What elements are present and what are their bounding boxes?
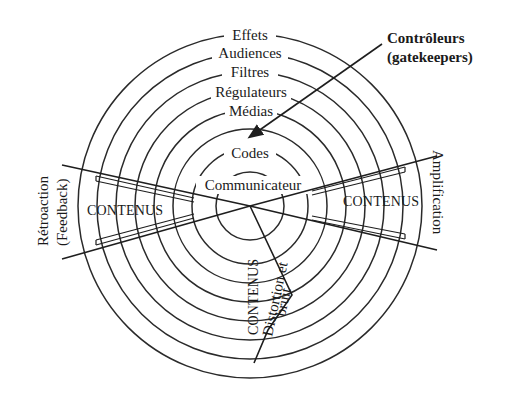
- label-gatekeepers: (gatekeepers): [387, 49, 473, 66]
- label-contenus-bottom: CONTENUS: [246, 259, 261, 335]
- label-codes: Codes: [231, 145, 269, 161]
- label-regulateurs: Régulateurs: [215, 84, 287, 100]
- amplification-lower-line: [250, 206, 437, 250]
- feedback-labels: Rétroaction (Feedback): [35, 176, 71, 246]
- label-communicateur: Communicateur: [205, 177, 302, 193]
- label-retroaction: Rétroaction: [35, 176, 51, 246]
- feedback-inner-upper-a: [96, 176, 194, 198]
- label-effets: Effets: [232, 27, 268, 43]
- label-amplification: Amplification: [430, 150, 446, 235]
- label-medias: Médias: [229, 103, 273, 119]
- label-filtres: Filtres: [231, 64, 269, 80]
- label-contenus-right: CONTENUS: [343, 194, 419, 209]
- communication-model-diagram: Effets Audiences Filtres Régulateurs Méd…: [0, 0, 510, 393]
- gatekeeper-label: Contrôleurs (gatekeepers): [387, 30, 473, 66]
- diagram-canvas: Effets Audiences Filtres Régulateurs Méd…: [0, 0, 510, 393]
- label-contenus-left: CONTENUS: [87, 203, 163, 218]
- amplification-inner-upper-b: [312, 172, 405, 195]
- distortion-labels: CONTENUS Distortion et bruit: [246, 259, 294, 338]
- label-feedback: (Feedback): [54, 179, 71, 246]
- feedback-inner-upper-b: [96, 181, 194, 202]
- label-audiences: Audiences: [218, 45, 281, 61]
- feedback-inner-lower-b: [96, 218, 194, 245]
- amplification-inner-lower-b: [312, 220, 405, 239]
- amplification-inner-upper-a: [312, 167, 405, 191]
- label-controleurs: Contrôleurs: [387, 30, 465, 46]
